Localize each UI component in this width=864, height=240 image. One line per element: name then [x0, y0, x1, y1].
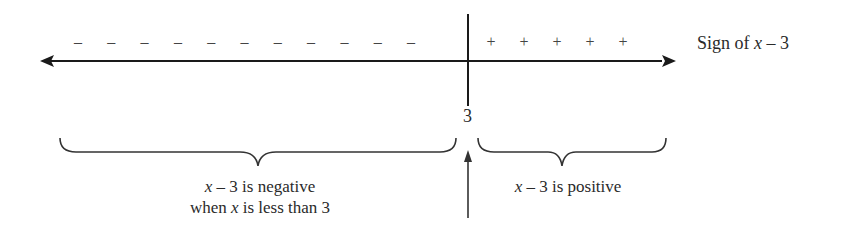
- positive-sign: +: [519, 33, 528, 51]
- up-arrowhead-icon: [464, 150, 472, 162]
- negative-sign: –: [141, 33, 149, 51]
- negative-sign: –: [207, 33, 215, 51]
- positive-sign: +: [618, 33, 627, 51]
- negative-sign: –: [107, 33, 115, 51]
- left-brace-icon: [60, 138, 456, 166]
- sign-label-prefix: Sign of: [697, 33, 754, 53]
- negative-sign: –: [241, 33, 249, 51]
- negative-sign: –: [274, 33, 282, 51]
- positive-sign: +: [486, 33, 495, 51]
- negative-label-line2: when x is less than 3: [140, 197, 380, 218]
- right-arrowhead-icon: [662, 55, 676, 67]
- negative-sign: –: [340, 33, 348, 51]
- positive-sign: +: [585, 33, 594, 51]
- right-brace-icon: [478, 138, 666, 166]
- critical-value-label: 3: [463, 106, 472, 127]
- sign-label-var: x: [754, 33, 762, 53]
- negative-label-line1: x – 3 is negative: [140, 176, 380, 197]
- sign-label-suffix: – 3: [762, 33, 789, 53]
- positive-region-label: x – 3 is positive: [478, 176, 658, 197]
- negative-region-label: x – 3 is negative when x is less than 3: [140, 176, 380, 218]
- negative-sign: –: [174, 33, 182, 51]
- sign-of-label: Sign of x – 3: [697, 33, 789, 54]
- negative-sign: –: [407, 33, 415, 51]
- negative-sign: –: [374, 33, 382, 51]
- negative-sign: –: [74, 33, 82, 51]
- negative-sign: –: [307, 33, 315, 51]
- positive-sign: +: [552, 33, 561, 51]
